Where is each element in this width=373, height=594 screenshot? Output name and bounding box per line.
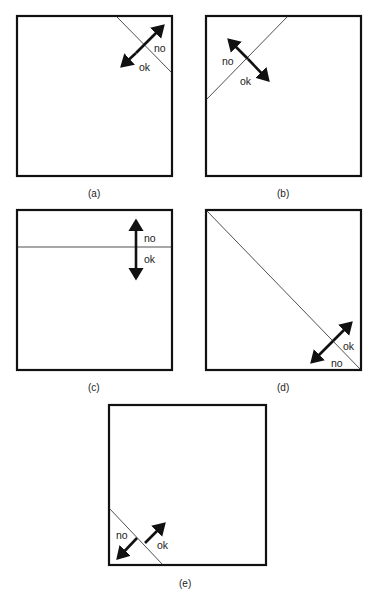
panel-b-label-no: no — [222, 55, 234, 67]
panel-a-caption: (a) — [88, 188, 100, 199]
panel-c: no ok (c) — [17, 210, 172, 393]
panel-d-arrow-ok — [333, 323, 351, 341]
panel-e-caption: (e) — [179, 578, 191, 589]
panel-e-label-no: no — [116, 529, 128, 541]
panel-a-label-ok: ok — [139, 61, 151, 73]
panel-b-caption: (b) — [277, 188, 289, 199]
panel-e: no ok (e) — [109, 405, 266, 589]
figure-canvas: no ok (a) no ok (b) no ok (c) ok no (d) — [0, 0, 373, 594]
panel-a-label-no: no — [154, 42, 166, 54]
panel-a: no ok (a) — [17, 16, 172, 199]
panel-a-arrow-ok — [122, 53, 136, 66]
panel-d-label-ok: ok — [343, 340, 355, 352]
panel-d-arrow-no — [312, 341, 333, 362]
panel-c-label-ok: ok — [144, 253, 156, 265]
panel-e-label-ok: ok — [157, 539, 169, 551]
panel-c-label-no: no — [144, 232, 156, 244]
panel-b-label-ok: ok — [240, 75, 252, 87]
panel-e-arrow-no — [118, 538, 137, 558]
panel-d-caption: (d) — [277, 382, 289, 393]
panel-c-caption: (c) — [88, 382, 100, 393]
panel-d: ok no (d) — [206, 210, 361, 393]
panel-d-boundary-line — [206, 210, 361, 370]
panel-b: no ok (b) — [206, 16, 361, 199]
panel-d-label-no: no — [331, 357, 343, 369]
